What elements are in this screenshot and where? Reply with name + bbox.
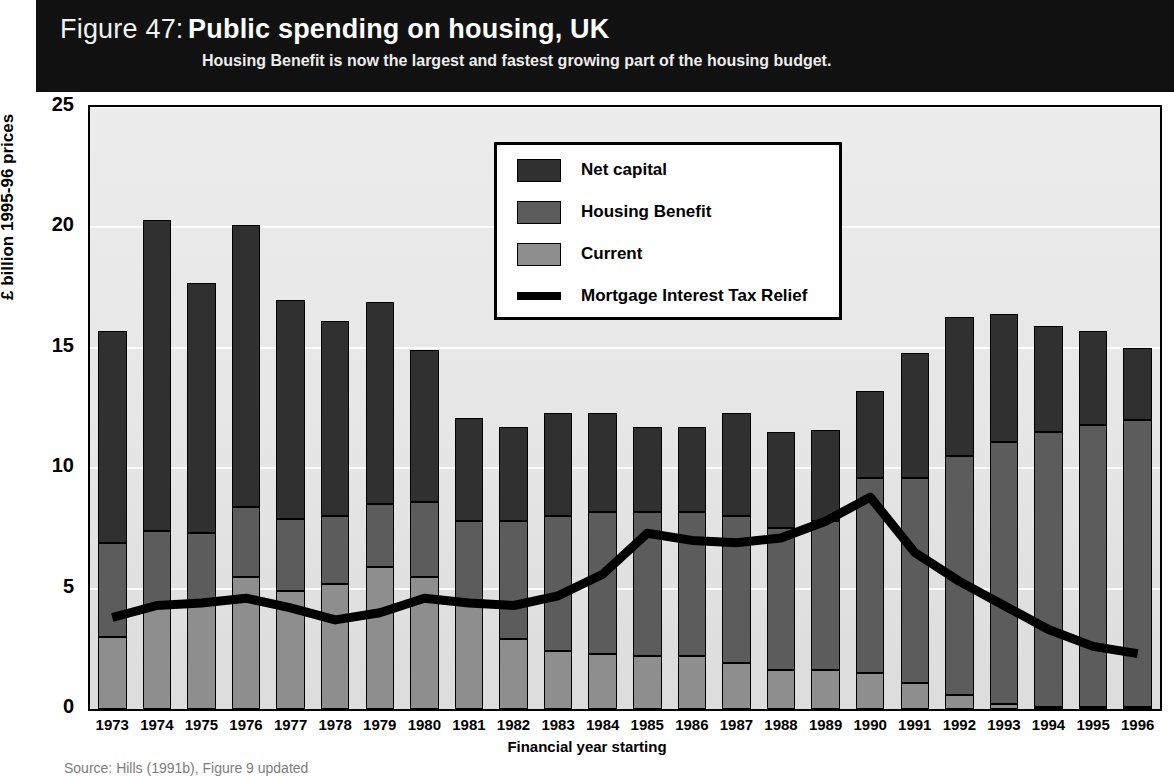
x-tick-label-1987: 1987 xyxy=(713,716,759,733)
legend-item-current: Current xyxy=(517,239,642,269)
y-tick-label: 5 xyxy=(14,575,74,598)
x-tick-label-1979: 1979 xyxy=(357,716,403,733)
housing-benefit-swatch-icon xyxy=(517,201,561,224)
legend-label-current: Current xyxy=(581,244,642,264)
legend-label-mitr: Mortgage Interest Tax Relief xyxy=(581,286,807,306)
x-tick-label-1986: 1986 xyxy=(669,716,715,733)
x-tick-label-1985: 1985 xyxy=(624,716,670,733)
x-tick-label-1980: 1980 xyxy=(401,716,447,733)
x-tick-label-1982: 1982 xyxy=(491,716,537,733)
figure-number-label: Figure 47: xyxy=(60,14,184,44)
y-tick-label: 0 xyxy=(14,695,74,718)
figure-title: Public spending on housing, UK xyxy=(188,14,609,44)
x-tick-label-1995: 1995 xyxy=(1070,716,1116,733)
source-note: Source: Hills (1991b), Figure 9 updated xyxy=(64,760,308,776)
x-tick-label-1992: 1992 xyxy=(936,716,982,733)
title-group: Figure 47: Public spending on housing, U… xyxy=(60,14,610,45)
x-tick-label-1984: 1984 xyxy=(580,716,626,733)
title-banner: Figure 47: Public spending on housing, U… xyxy=(36,0,1174,92)
x-tick-label-1973: 1973 xyxy=(89,716,135,733)
current-swatch-icon xyxy=(517,243,561,266)
figure-subtitle: Housing Benefit is now the largest and f… xyxy=(202,52,831,70)
x-tick-label-1988: 1988 xyxy=(758,716,804,733)
x-tick-label-1976: 1976 xyxy=(223,716,269,733)
x-tick-label-1990: 1990 xyxy=(847,716,893,733)
y-tick-label: 25 xyxy=(14,93,74,116)
net-capital-swatch-icon xyxy=(517,159,561,182)
x-axis-title: Financial year starting xyxy=(0,738,1174,755)
x-tick-label-1975: 1975 xyxy=(178,716,224,733)
mitr-line-swatch-icon xyxy=(517,292,561,300)
legend-item-housing-benefit: Housing Benefit xyxy=(517,197,711,227)
y-tick-label: 10 xyxy=(14,454,74,477)
x-tick-label-1989: 1989 xyxy=(803,716,849,733)
legend-label-net-capital: Net capital xyxy=(581,160,667,180)
x-tick-label-1993: 1993 xyxy=(981,716,1027,733)
legend-label-housing-benefit: Housing Benefit xyxy=(581,202,711,222)
x-tick-label-1978: 1978 xyxy=(312,716,358,733)
x-tick-label-1996: 1996 xyxy=(1115,716,1161,733)
y-axis-title: £ billion 1995-96 prices xyxy=(0,114,18,300)
x-tick-label-1991: 1991 xyxy=(892,716,938,733)
chart-legend: Net capital Housing Benefit Current Mort… xyxy=(494,142,842,320)
y-tick-label: 20 xyxy=(14,213,74,236)
x-tick-label-1983: 1983 xyxy=(535,716,581,733)
x-tick-label-1974: 1974 xyxy=(134,716,180,733)
x-tick-label-1994: 1994 xyxy=(1026,716,1072,733)
legend-item-mitr: Mortgage Interest Tax Relief xyxy=(517,281,807,311)
y-tick-label: 15 xyxy=(14,334,74,357)
legend-item-net-capital: Net capital xyxy=(517,155,667,185)
x-tick-label-1981: 1981 xyxy=(446,716,492,733)
x-tick-label-1977: 1977 xyxy=(268,716,314,733)
